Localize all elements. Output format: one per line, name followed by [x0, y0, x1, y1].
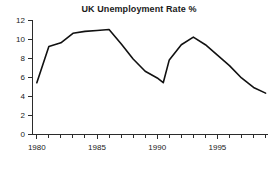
- x-tick-label: 1995: [209, 143, 227, 152]
- y-tick-label: 0: [21, 130, 26, 139]
- y-tick-label: 4: [21, 92, 26, 101]
- chart-container: UK Unemployment Rate % 024681012 1980198…: [0, 0, 278, 172]
- y-tick-label: 12: [16, 16, 25, 25]
- x-axis-ticks: 1980198519901995: [28, 134, 266, 152]
- x-tick-label: 1990: [148, 143, 166, 152]
- x-tick-label: 1980: [28, 143, 46, 152]
- y-tick-label: 8: [21, 54, 26, 63]
- x-tick-label: 1985: [88, 143, 106, 152]
- y-tick-label: 2: [21, 111, 26, 120]
- data-series-line-uk-unemployment-rate: [37, 30, 266, 94]
- y-tick-label: 10: [16, 35, 25, 44]
- y-axis-ticks: 024681012: [16, 16, 32, 139]
- line-chart-plot: 024681012 1980198519901995: [0, 0, 278, 172]
- y-tick-label: 6: [21, 73, 26, 82]
